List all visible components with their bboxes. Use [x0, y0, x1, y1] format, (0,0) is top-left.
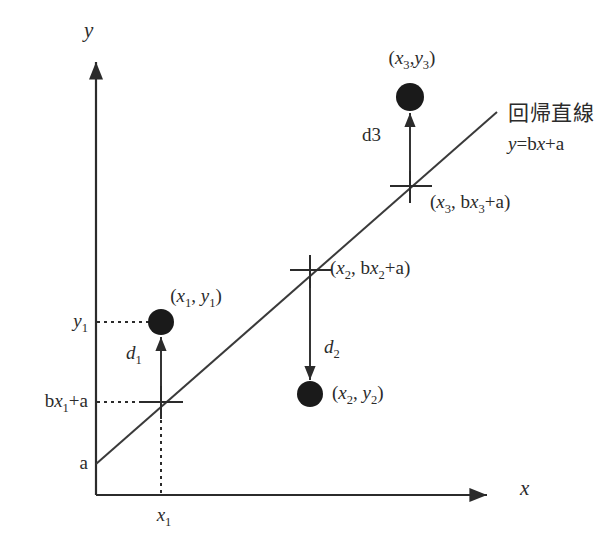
fitted-var-x: x — [436, 191, 444, 212]
fitted-mid: , b — [451, 191, 470, 212]
x-tick-label-x1: x1 — [157, 505, 172, 528]
regression-line-equation: y=bx+a — [508, 134, 564, 153]
residual-label-d3: d3 — [362, 125, 381, 144]
label-sep: , — [191, 285, 201, 306]
y-tick-var: x — [54, 390, 62, 411]
label-var-x: x — [395, 47, 403, 68]
paren-close: ) — [429, 47, 435, 68]
y-tick-label-y1: y1 — [73, 311, 88, 334]
y-tick-coef: b — [45, 390, 55, 411]
label-var-x: x — [177, 285, 185, 306]
fitted-mid: , b — [351, 257, 370, 278]
diagram-canvas — [0, 0, 604, 546]
data-point-3-label: (x3,y3) — [389, 48, 436, 71]
label-var-y: y — [201, 285, 209, 306]
data-point-3 — [396, 83, 424, 111]
x-tick-sub: 1 — [165, 515, 171, 529]
equation-plus-a: +a — [545, 133, 564, 154]
y-tick-label-bx1a: bx1+a — [45, 391, 88, 414]
residual-sub: 1 — [136, 353, 142, 367]
paren-close: ) — [377, 382, 383, 403]
label-sep: , — [353, 382, 363, 403]
residual-name: d — [126, 342, 136, 363]
regression-line — [96, 112, 497, 464]
residual-name: d3 — [362, 124, 381, 145]
fitted-point-3-label: (x3, bx3+a) — [430, 192, 510, 215]
label-var-x: x — [338, 382, 346, 403]
data-point-1 — [148, 309, 174, 335]
paren-close: ) — [215, 285, 221, 306]
intercept-label-a: a — [80, 453, 88, 472]
data-point-1-label: (x1, y1) — [170, 286, 222, 309]
paren-close: ) — [504, 191, 510, 212]
residual-label-d1: d1 — [126, 343, 142, 366]
fitted-tail: +a — [485, 191, 504, 212]
data-point-2 — [297, 381, 323, 407]
paren-close: ) — [404, 257, 410, 278]
x-axis-label: x — [520, 478, 529, 499]
y-tick-sub: 1 — [82, 321, 88, 335]
residual-sub: 2 — [334, 347, 340, 361]
regression-line-legend-jp: 回帰直線 — [508, 103, 594, 124]
regression-diagram-figure: y x x1 y1 bx1+a a 回帰直線 y=bx+a (x3,y3) (x… — [0, 0, 604, 546]
label-var-y: y — [363, 382, 371, 403]
equation-var-x: x — [537, 133, 545, 154]
residual-label-d2: d2 — [324, 337, 340, 360]
data-point-2-label: (x2, y2) — [332, 383, 384, 406]
fitted-point-cross-1 — [140, 386, 183, 419]
y-axis-label: y — [84, 20, 93, 41]
fitted-point-cross-2 — [290, 255, 332, 288]
label-var-y: y — [414, 47, 422, 68]
equation-eq-b: =b — [516, 133, 536, 154]
y-tick-tail: +a — [69, 390, 88, 411]
fitted-point-2-label: (x2, bx2+a) — [330, 258, 410, 281]
fitted-tail: +a — [385, 257, 404, 278]
fitted-var-x: x — [336, 257, 344, 278]
residual-name: d — [324, 336, 334, 357]
